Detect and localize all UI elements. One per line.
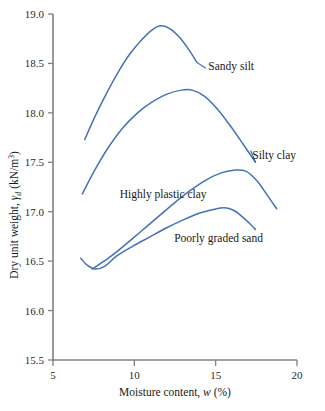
x-axis-tick-labels: 5101520 [50, 369, 303, 381]
chart-container: 15.516.016.517.017.518.018.519.0 5101520… [0, 0, 325, 411]
y-tick-label: 17.5 [25, 156, 45, 168]
y-axis-tick-labels: 15.516.016.517.017.518.018.519.0 [25, 8, 45, 366]
y-tick-label: 17.0 [25, 206, 45, 218]
chart-series-labels: Sandy siltSilty clayHighly plastic clayP… [120, 60, 297, 245]
x-axis-title: Moisture content, w (%) [119, 386, 231, 399]
series-curve-sandy-silt [85, 26, 197, 140]
y-tick-label: 15.5 [25, 354, 45, 366]
x-tick-label: 20 [292, 369, 304, 381]
y-axis-title: Dry unit weight, γd (kN/m3) [7, 151, 23, 279]
x-tick-label: 5 [50, 369, 56, 381]
x-tick-label: 10 [129, 369, 141, 381]
y-tick-label: 16.0 [25, 305, 45, 317]
y-tick-label: 16.5 [25, 255, 45, 267]
series-label-poorly-graded-sand: Poorly graded sand [174, 232, 263, 245]
series-label-silty-clay: Silty clay [252, 149, 296, 162]
sandy-silt-leader [197, 62, 206, 68]
y-tick-label: 19.0 [25, 8, 45, 20]
x-tick-label: 15 [210, 369, 222, 381]
compaction-curves-chart: 15.516.016.517.017.518.018.519.0 5101520… [0, 0, 325, 411]
series-label-highly-plastic-clay: Highly plastic clay [120, 188, 207, 201]
svg-text:Dry unit weight, γd (kN/m3): Dry unit weight, γd (kN/m3) [7, 151, 23, 279]
y-tick-label: 18.5 [25, 57, 45, 69]
svg-text:Moisture content, w (%): Moisture content, w (%) [119, 386, 231, 399]
y-tick-label: 18.0 [25, 107, 45, 119]
series-curve-silty-clay [82, 89, 255, 193]
chart-leader-lines [197, 62, 256, 162]
series-label-sandy-silt: Sandy silt [208, 60, 254, 73]
